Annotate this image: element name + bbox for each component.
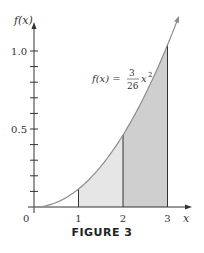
- origin-label: 0: [23, 213, 29, 224]
- function-label-var: x: [141, 73, 147, 84]
- figure-3-plot: 0.51.0 123 f(x) x 0 f(x) = 3 26 x 2 FIGU…: [0, 0, 204, 253]
- chart-canvas: 0.51.0 123 f(x) x 0 f(x) = 3 26 x 2: [0, 0, 204, 253]
- y-tick-label: 0.5: [11, 124, 27, 135]
- function-label: f(x) = 3 26 x 2: [91, 68, 152, 91]
- function-label-exponent: 2: [148, 71, 152, 79]
- curve-arrow-icon: [174, 16, 179, 23]
- x-axis-label: x: [183, 212, 190, 225]
- x-tick-label: 1: [75, 213, 81, 224]
- y-axis-label: f(x): [13, 14, 33, 27]
- x-axis-ticks: 123: [75, 213, 170, 224]
- function-label-numerator: 3: [129, 68, 135, 78]
- x-tick-label: 2: [120, 213, 126, 224]
- function-label-lhs: f(x) =: [91, 73, 121, 84]
- x-tick-label: 3: [164, 213, 170, 224]
- x-axis-arrow-icon: [185, 205, 192, 210]
- function-label-denominator: 26: [127, 81, 139, 91]
- y-tick-label: 1.0: [11, 46, 27, 57]
- figure-caption: FIGURE 3: [0, 226, 204, 239]
